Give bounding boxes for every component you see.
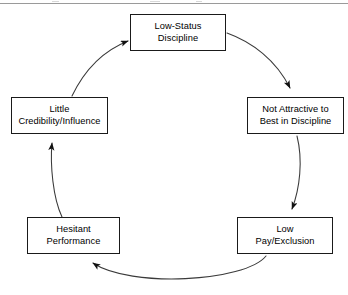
node-hesitant-performance: Hesitant Performance	[27, 217, 120, 254]
edge-lowpay-to-hesitant-path	[93, 256, 266, 279]
node-low-pay-exclusion-line1: Low	[276, 224, 293, 235]
node-low-pay-exclusion: Low Pay/Exclusion	[237, 217, 333, 254]
node-little-credibility: Little Credibility/Influence	[11, 97, 108, 134]
node-low-status-discipline-line2: Discipline	[158, 33, 198, 44]
node-hesitant-performance-line1: Hesitant	[56, 224, 91, 235]
edge-credibility-to-top-path	[72, 41, 128, 96]
node-hesitant-performance-line2: Performance	[47, 236, 101, 247]
node-low-status-discipline-line1: Low-Status	[154, 21, 201, 32]
edge-right-to-lowpay-path	[292, 136, 300, 209]
edge-top-to-right-path	[227, 33, 290, 88]
node-little-credibility-line1: Little	[50, 104, 70, 115]
node-not-attractive-line2: Best in Discipline	[260, 116, 332, 127]
node-not-attractive-line1: Not Attractive to	[262, 104, 328, 115]
edge-hesitant-to-credibility-path	[51, 143, 62, 217]
node-low-pay-exclusion-line2: Pay/Exclusion	[255, 236, 314, 247]
node-low-status-discipline: Low-Status Discipline	[130, 14, 226, 51]
cycle-diagram-figure: Low-Status Discipline Not Attractive to …	[0, 0, 348, 295]
node-little-credibility-line2: Credibility/Influence	[18, 116, 100, 127]
node-not-attractive: Not Attractive to Best in Discipline	[247, 97, 344, 134]
